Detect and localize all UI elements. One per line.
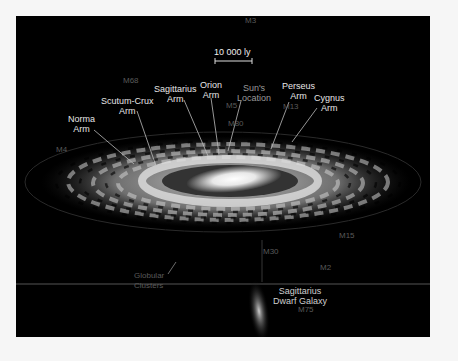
scutum-crux-arm-label: Scutum-Crux Arm [101, 96, 154, 116]
m30-label: M30 [263, 247, 279, 257]
m80-label: M80 [228, 119, 244, 129]
m2-label: M2 [320, 263, 331, 273]
milky-way-diagram: 10 000 ly Norma Arm Scutum-Crux Arm Sagi… [16, 16, 430, 337]
perseus-arm-label: Perseus Arm [282, 81, 315, 101]
sagittarius-dwarf-galaxy [245, 278, 274, 337]
sagittarius-dwarf-galaxy-label: Sagittarius Dwarf Galaxy [273, 286, 327, 306]
scale-bar-label: 10 000 ly [214, 47, 251, 57]
orion-arm-label: Orion Arm [200, 80, 222, 100]
norma-arm-label: Norma Arm [68, 114, 95, 134]
galaxy-illustration [16, 16, 430, 337]
m13-label: M13 [283, 102, 299, 112]
suns-location-label: Sun's Location [237, 83, 271, 103]
m4-label: M4 [56, 145, 67, 155]
m68-label: M68 [123, 76, 139, 86]
m5-label: M5 [226, 101, 237, 111]
m15-label: M15 [339, 231, 355, 241]
sagittarius-arm-label: Sagittarius Arm [154, 84, 197, 104]
m3-label: M3 [245, 16, 256, 26]
cygnus-arm-label: Cygnus Arm [314, 93, 345, 113]
globular-clusters-label: Globular Clusters [134, 271, 164, 291]
m75-label: M75 [298, 305, 314, 315]
